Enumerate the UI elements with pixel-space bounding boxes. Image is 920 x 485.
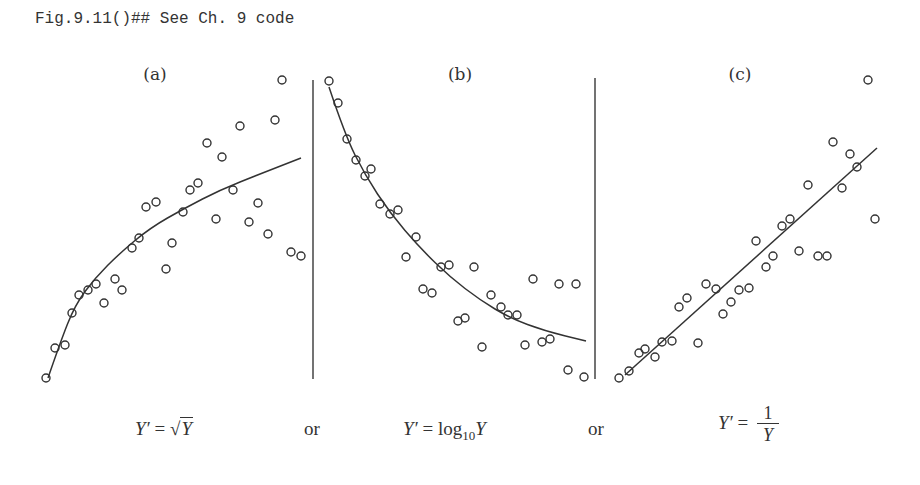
- data-point-a: [42, 374, 50, 382]
- data-point-c: [804, 181, 812, 189]
- data-point-a: [61, 341, 69, 349]
- data-point-a: [168, 239, 176, 247]
- data-point-c: [641, 345, 649, 353]
- formula-c-eq: =: [737, 412, 748, 433]
- data-point-b: [546, 335, 554, 343]
- data-point-a: [162, 265, 170, 273]
- data-point-b: [538, 338, 546, 346]
- fit-curve-c: [625, 148, 877, 375]
- data-point-b: [470, 263, 478, 271]
- data-point-b: [521, 341, 529, 349]
- formula-b-lhs: Y′: [403, 418, 418, 439]
- data-point-c: [727, 298, 735, 306]
- data-point-a: [194, 179, 202, 187]
- sqrt-symbol: √Y: [170, 418, 193, 440]
- formula-c-lhs: Y′: [718, 412, 733, 433]
- data-point-b: [325, 77, 333, 85]
- data-point-b: [572, 280, 580, 288]
- data-point-a: [212, 215, 220, 223]
- data-point-b: [478, 343, 486, 351]
- data-point-a: [128, 244, 136, 252]
- data-point-a: [186, 186, 194, 194]
- data-point-a: [245, 218, 253, 226]
- data-point-a: [111, 275, 119, 283]
- fraction-numerator: 1: [763, 403, 772, 423]
- data-point-c: [668, 337, 676, 345]
- separator-or-1: or: [304, 418, 320, 440]
- data-point-c: [719, 310, 727, 318]
- data-point-c: [871, 215, 879, 223]
- data-point-c: [712, 285, 720, 293]
- data-point-c: [745, 284, 753, 292]
- data-point-c: [778, 222, 786, 230]
- formula-sqrt: Y′ = √Y: [135, 418, 193, 440]
- data-point-b: [487, 291, 495, 299]
- data-point-a: [264, 230, 272, 238]
- data-point-a: [254, 199, 262, 207]
- formula-log: Y′ = log10Y: [403, 418, 486, 444]
- data-point-a: [229, 186, 237, 194]
- data-point-b: [461, 314, 469, 322]
- data-point-c: [769, 252, 777, 260]
- data-point-a: [118, 286, 126, 294]
- formula-reciprocal: Y′ = 1 Y: [718, 403, 779, 446]
- data-point-c: [864, 76, 872, 84]
- data-point-b: [428, 289, 436, 297]
- data-point-a: [236, 122, 244, 130]
- data-point-b: [394, 206, 402, 214]
- data-point-c: [694, 339, 702, 347]
- data-point-c: [846, 150, 854, 158]
- fit-curve-b: [329, 87, 586, 341]
- formula-a-lhs: Y′: [135, 418, 150, 439]
- formula-b-var: Y: [475, 418, 486, 439]
- panel-dividers: [313, 78, 595, 379]
- data-point-b: [580, 373, 588, 381]
- data-point-a: [271, 116, 279, 124]
- data-point-a: [297, 252, 305, 260]
- data-point-b: [412, 233, 420, 241]
- formula-b-sub: 10: [462, 428, 475, 443]
- fit-curve-a: [48, 158, 301, 378]
- data-point-a: [278, 76, 286, 84]
- data-point-a: [287, 248, 295, 256]
- data-point-a: [218, 153, 226, 161]
- fitted-curves: [48, 87, 877, 378]
- data-point-b: [367, 165, 375, 173]
- data-point-c: [675, 303, 683, 311]
- data-point-b: [419, 285, 427, 293]
- figure-plots: [0, 0, 920, 485]
- data-point-c: [651, 353, 659, 361]
- data-point-b: [555, 280, 563, 288]
- data-point-a: [92, 280, 100, 288]
- data-point-c: [702, 280, 710, 288]
- data-point-c: [615, 374, 623, 382]
- data-point-c: [829, 138, 837, 146]
- data-point-b: [564, 366, 572, 374]
- data-point-c: [795, 247, 803, 255]
- formula-a-eq: =: [154, 418, 165, 439]
- fraction-denominator: Y: [763, 424, 773, 446]
- data-point-c: [735, 286, 743, 294]
- data-point-a: [142, 203, 150, 211]
- data-point-a: [100, 299, 108, 307]
- data-point-b: [402, 253, 410, 261]
- data-point-b: [437, 263, 445, 271]
- formula-b-eq: =: [422, 418, 433, 439]
- separator-or-2: or: [588, 418, 604, 440]
- data-point-b: [376, 200, 384, 208]
- data-point-b: [497, 303, 505, 311]
- data-point-b: [529, 275, 537, 283]
- data-point-c: [838, 184, 846, 192]
- data-point-b: [445, 261, 453, 269]
- fraction: 1 Y: [757, 403, 779, 446]
- data-point-a: [203, 139, 211, 147]
- data-point-c: [762, 263, 770, 271]
- data-point-c: [814, 252, 822, 260]
- data-point-c: [823, 252, 831, 260]
- data-point-a: [152, 198, 160, 206]
- data-point-c: [752, 237, 760, 245]
- data-point-c: [786, 215, 794, 223]
- data-point-c: [683, 294, 691, 302]
- formula-b-func: log: [438, 418, 462, 439]
- formula-a-radicand: Y: [180, 417, 193, 439]
